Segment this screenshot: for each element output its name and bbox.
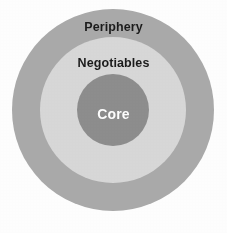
ring-label-core: Core [0, 106, 227, 122]
ring-label-periphery: Periphery [0, 20, 227, 34]
concentric-circles-diagram: Periphery Negotiables Core [0, 0, 227, 233]
ring-label-negotiables: Negotiables [0, 56, 227, 70]
